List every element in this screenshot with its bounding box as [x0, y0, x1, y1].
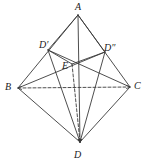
vertex-label-C: C — [134, 81, 141, 91]
edge-A-Dp — [48, 15, 78, 50]
edge-A-Dpp — [78, 15, 105, 52]
geometry-figure: A D′ D″ E B C D — [0, 0, 148, 166]
vertex-label-D: D — [74, 150, 81, 160]
geometry-canvas — [0, 0, 148, 166]
edge-layer — [18, 15, 130, 142]
vertex-label-E: E — [62, 61, 68, 71]
vertex-label-B: B — [5, 82, 11, 92]
edge-A-D — [78, 15, 80, 142]
vertex-label-D-prime: D′ — [39, 40, 48, 50]
edge-Dp-C — [48, 50, 130, 87]
vertex-label-D-double-prime: D″ — [104, 43, 115, 53]
vertex-label-A: A — [75, 2, 81, 12]
